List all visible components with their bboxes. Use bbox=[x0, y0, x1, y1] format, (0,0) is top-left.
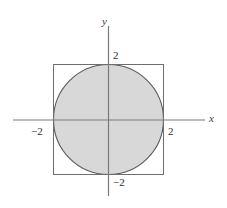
x-axis-label: x bbox=[209, 113, 214, 124]
tick-label-y-negative: −2 bbox=[113, 177, 125, 188]
y-axis-label: y bbox=[102, 16, 107, 27]
graph-figure: y x 2 −2 2 −2 bbox=[0, 0, 227, 208]
tick-label-y-positive: 2 bbox=[113, 50, 119, 61]
tick-label-x-negative: −2 bbox=[31, 126, 43, 137]
tick-label-x-positive: 2 bbox=[168, 126, 174, 137]
